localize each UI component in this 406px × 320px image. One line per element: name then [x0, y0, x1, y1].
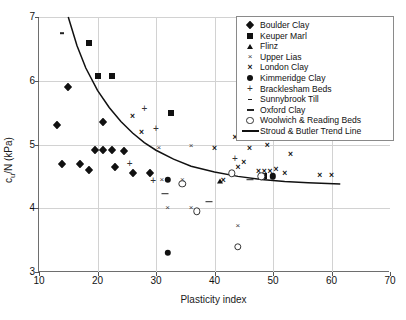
legend-label: Flinz: [260, 42, 278, 51]
marker-circle-filled: [247, 75, 253, 81]
legend-label: Boulder Clay: [260, 21, 309, 30]
x-axis-tick-label: 20: [92, 276, 103, 286]
legend-label: Woolwich & Reading Beds: [260, 116, 361, 125]
legend-marker: ×: [240, 52, 260, 62]
x-axis-tick-mark: [39, 272, 40, 276]
marker-square: [247, 33, 253, 39]
legend-item-keuper-marl[interactable]: Keuper Marl: [240, 31, 389, 42]
x-axis-tick-mark: [332, 272, 333, 276]
y-axis-label-rest: /N (kPa): [3, 137, 14, 174]
legend-label: Sunnybrook Till: [260, 95, 319, 104]
legend-item-boulder-clay[interactable]: Boulder Clay: [240, 20, 389, 31]
x-axis-tick-label: 30: [150, 276, 161, 286]
legend-marker: [240, 116, 260, 126]
legend-marker: [240, 126, 260, 136]
x-axis-tick-label: 50: [267, 276, 278, 286]
marker-cross-thin: ×: [248, 53, 253, 61]
x-axis-tick-mark: [98, 272, 99, 276]
marker-diamond: [246, 21, 254, 29]
y-axis-label: cu/N (kPa): [3, 115, 17, 205]
marker-triangle: [247, 44, 253, 49]
marker-circle-open: [246, 117, 253, 124]
legend-label: Kimmeridge Clay: [260, 74, 325, 83]
legend-marker: [240, 105, 260, 115]
legend-item-flinz[interactable]: Flinz: [240, 41, 389, 52]
marker-dash-small: [248, 99, 252, 101]
legend-label: Upper Lias: [260, 53, 302, 62]
x-axis-tick-label: 10: [33, 276, 44, 286]
x-axis-label: Plasticity index: [38, 294, 389, 305]
x-axis-tick-mark: [390, 272, 391, 276]
marker-plus: +: [247, 84, 253, 94]
legend-item-stroud-butler-trend-line[interactable]: Stroud & Butler Trend Line: [240, 126, 389, 137]
legend-item-woolwich-reading-beds[interactable]: Woolwich & Reading Beds: [240, 115, 389, 126]
legend-trend-line-swatch: [242, 130, 259, 132]
legend-item-london-clay[interactable]: ×London Clay: [240, 62, 389, 73]
y-axis-label-main: c: [3, 178, 14, 183]
x-axis-tick-label: 70: [384, 276, 395, 286]
legend-item-bracklesham-beds[interactable]: +Bracklesham Beds: [240, 84, 389, 95]
legend-marker: [240, 94, 260, 104]
legend-marker: ×: [240, 63, 260, 73]
legend-item-upper-lias[interactable]: ×Upper Lias: [240, 52, 389, 63]
x-axis-tick-mark: [156, 272, 157, 276]
legend-label: Keuper Marl: [260, 32, 307, 41]
legend-marker: +: [240, 84, 260, 94]
legend-item-oxford-clay[interactable]: Oxford Clay: [240, 105, 389, 116]
x-axis-tick-label: 40: [209, 276, 220, 286]
x-axis-tick-mark: [273, 272, 274, 276]
legend-marker: [240, 20, 260, 30]
legend-label: Bracklesham Beds: [260, 85, 332, 94]
legend-item-kimmeridge-clay[interactable]: Kimmeridge Clay: [240, 73, 389, 84]
x-axis-tick-label: 60: [326, 276, 337, 286]
scatter-chart-figure: cu/N (kPa) 3456710203040506070 ×××××××××…: [0, 0, 406, 320]
legend-label: Oxford Clay: [260, 106, 305, 115]
legend-label: Stroud & Butler Trend Line: [260, 127, 361, 136]
legend-marker: [240, 73, 260, 83]
legend-label: London Clay: [260, 63, 308, 72]
x-axis-tick-mark: [215, 272, 216, 276]
chart-legend: Boulder ClayKeuper MarlFlinz×Upper Lias×…: [236, 16, 394, 141]
legend-item-sunnybrook-till[interactable]: Sunnybrook Till: [240, 94, 389, 105]
legend-marker: [240, 31, 260, 41]
legend-marker: [240, 41, 260, 51]
marker-cross-bold: ×: [248, 63, 253, 72]
marker-dash-large: [247, 109, 254, 111]
y-axis-label-subscript: u: [8, 174, 17, 178]
